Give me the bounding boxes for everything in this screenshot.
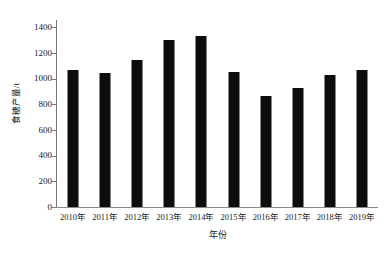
bar[interactable] xyxy=(164,40,175,207)
y-tick-label: 800 xyxy=(6,100,52,109)
x-tick-label: 2019年 xyxy=(342,211,382,223)
y-tick-label: 1000 xyxy=(6,74,52,83)
bar-slot xyxy=(185,21,217,207)
bar-slot xyxy=(218,21,250,207)
bar-chart-figure: 食糖产量/t 1400 1200 1000 800 600 400 200 0 … xyxy=(0,0,389,253)
bar[interactable] xyxy=(356,70,367,208)
y-tick-label: 1200 xyxy=(6,49,52,58)
bar-slot xyxy=(57,21,89,207)
bar-slot xyxy=(121,21,153,207)
bar-slot xyxy=(314,21,346,207)
x-axis-line xyxy=(56,207,378,208)
y-tick-label: 400 xyxy=(6,151,52,160)
bar[interactable] xyxy=(100,73,111,207)
bar[interactable] xyxy=(260,96,271,207)
bar-slot xyxy=(89,21,121,207)
x-axis-tick-labels: 2010年2011年2012年2013年2014年2015年2016年2017年… xyxy=(57,211,378,225)
y-tick-label: 600 xyxy=(6,126,52,135)
bar[interactable] xyxy=(132,60,143,207)
y-tick-label: 1400 xyxy=(6,23,52,32)
bar-slot xyxy=(282,21,314,207)
bar-slot xyxy=(153,21,185,207)
y-tick-label: 0 xyxy=(6,203,52,212)
y-axis-tick-labels: 1400 1200 1000 800 600 400 200 0 xyxy=(3,0,52,253)
bar[interactable] xyxy=(292,88,303,207)
bar[interactable] xyxy=(228,72,239,207)
y-tick-label: 200 xyxy=(6,177,52,186)
bar[interactable] xyxy=(68,70,79,207)
bar[interactable] xyxy=(196,36,207,207)
bar[interactable] xyxy=(324,75,335,207)
bar-slot xyxy=(346,21,378,207)
x-axis-title: 年份 xyxy=(57,229,378,241)
plot-area xyxy=(57,21,378,207)
bar-slot xyxy=(250,21,282,207)
